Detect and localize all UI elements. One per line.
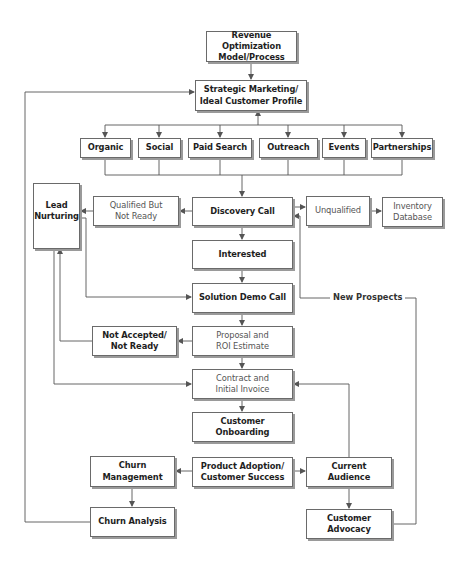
node-current-audience: Current Audience	[306, 457, 392, 487]
node-paid-search: Paid Search	[188, 138, 252, 158]
node-churn-management: Churn Management	[90, 456, 175, 487]
node-inventory-database: Inventory Database	[382, 197, 443, 227]
node-customer-advocacy: Customer Advocacy	[306, 509, 392, 539]
node-unqualified: Unqualified	[306, 196, 370, 226]
node-social: Social	[138, 138, 181, 158]
node-strategic-marketing: Strategic Marketing/ Ideal Customer Prof…	[195, 80, 307, 111]
node-contract-invoice: Contract and Initial Invoice	[192, 369, 293, 399]
node-outreach: Outreach	[259, 138, 318, 158]
node-not-accepted: Not Accepted/ Not Ready	[92, 326, 177, 356]
node-customer-onboarding: Customer Onboarding	[192, 412, 293, 442]
node-solution-demo-call: Solution Demo Call	[192, 283, 293, 313]
edge-audience-contract	[294, 384, 349, 457]
edge-lead-solution	[81, 218, 191, 297]
edge-notaccepted-lead	[60, 249, 92, 341]
edge-label-new-prospects: New Prospects	[330, 292, 405, 302]
node-interested: Interested	[192, 240, 293, 269]
node-churn-analysis: Churn Analysis	[90, 507, 175, 537]
node-partnerships: Partnerships	[371, 138, 433, 158]
node-events: Events	[322, 138, 366, 158]
node-lead-nurturing: Lead Nurturing	[33, 183, 80, 249]
edge-lead-contract	[54, 249, 191, 384]
node-qualified-not-ready: Qualified But Not Ready	[93, 196, 179, 226]
node-product-adoption: Product Adoption/ Customer Success	[192, 457, 293, 487]
node-discovery-call: Discovery Call	[192, 197, 293, 226]
node-proposal-roi: Proposal and ROI Estimate	[192, 326, 293, 356]
node-organic: Organic	[80, 138, 131, 158]
node-revenue-optimization: Revenue Optimization Model/Process	[206, 31, 297, 62]
